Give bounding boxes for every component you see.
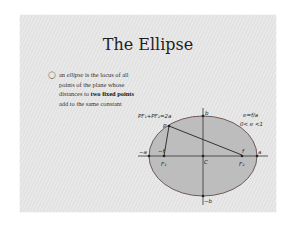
label-neg-f: −f xyxy=(158,148,166,154)
formula-sum: PF₁+PF₂=2a xyxy=(138,113,172,119)
ellipse-diagram: PF₁+PF₂=2a e=f/a 0< e <1 b −b a −a f −f … xyxy=(0,0,293,232)
label-neg-b: −b xyxy=(204,198,213,204)
label-C: C xyxy=(204,159,208,165)
label-b: b xyxy=(205,110,209,116)
label-F2: F₂ xyxy=(239,161,245,167)
label-a: a xyxy=(258,149,262,155)
eccentricity-label: e=f/a xyxy=(243,112,259,118)
eccentricity-range: 0< e <1 xyxy=(240,121,263,127)
label-neg-a: −a xyxy=(139,149,148,155)
label-F1: F₁ xyxy=(161,161,166,167)
